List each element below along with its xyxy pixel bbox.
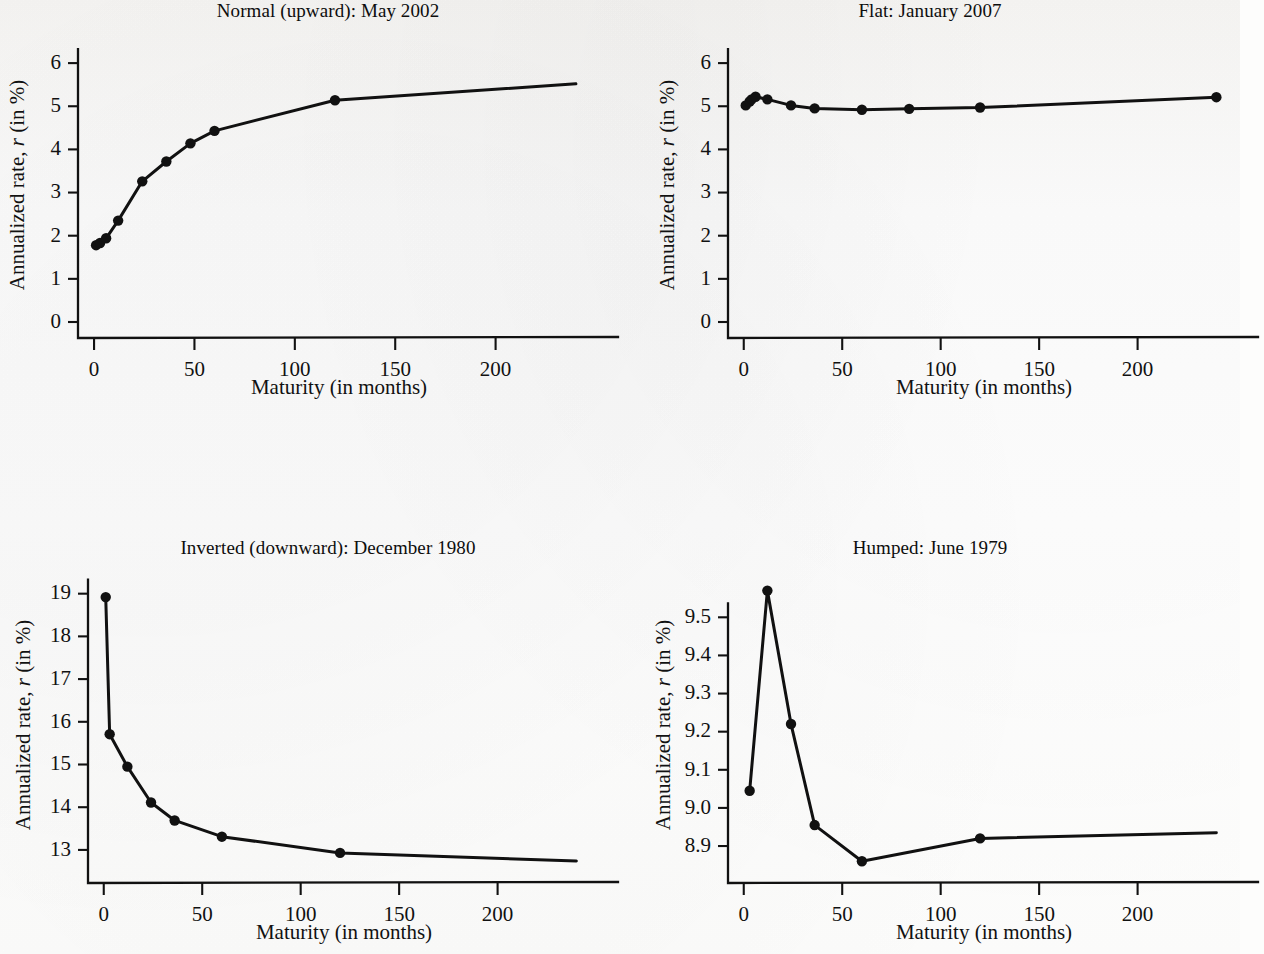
x-tick-label: 0 bbox=[89, 357, 100, 381]
data-point bbox=[975, 833, 985, 843]
data-point bbox=[335, 848, 345, 858]
y-tick-label: 14 bbox=[50, 794, 72, 818]
x-tick-label: 50 bbox=[832, 902, 853, 926]
y-axis-title: Annualized rate, r (in %) bbox=[11, 620, 35, 831]
x-tick-label: 0 bbox=[739, 902, 750, 926]
x-tick-label: 50 bbox=[192, 902, 213, 926]
data-point bbox=[786, 719, 796, 729]
x-tick-label: 200 bbox=[480, 357, 512, 381]
x-axis-title: Maturity (in months) bbox=[896, 375, 1072, 399]
y-tick-label: 1 bbox=[51, 266, 62, 290]
y-tick-label: 9.0 bbox=[685, 795, 711, 819]
y-tick-label: 13 bbox=[50, 837, 71, 861]
data-point bbox=[137, 176, 147, 186]
x-axis-title: Maturity (in months) bbox=[896, 920, 1072, 944]
data-point bbox=[146, 797, 156, 807]
data-point bbox=[762, 94, 772, 104]
y-axis-title: Annualized rate, r (in %) bbox=[651, 620, 675, 831]
data-point bbox=[169, 815, 179, 825]
panel-inverted: Inverted (downward): December 1980 13141… bbox=[0, 477, 620, 954]
y-tick-label: 17 bbox=[50, 666, 71, 690]
x-tick-label: 0 bbox=[739, 357, 750, 381]
y-tick-label: 2 bbox=[51, 223, 62, 247]
data-point bbox=[857, 105, 867, 115]
data-point bbox=[101, 233, 111, 243]
x-tick-label: 200 bbox=[482, 902, 514, 926]
chart-normal: 0123456050100150200Maturity (in months)A… bbox=[0, 0, 620, 477]
data-point bbox=[750, 92, 760, 102]
y-axis-title: Annualized rate, r (in %) bbox=[655, 80, 679, 291]
y-tick-label: 19 bbox=[50, 580, 71, 604]
y-tick-label: 9.1 bbox=[685, 757, 711, 781]
x-tick-label: 0 bbox=[99, 902, 110, 926]
x-tick-label: 200 bbox=[1122, 902, 1154, 926]
y-tick-label: 15 bbox=[50, 751, 71, 775]
y-tick-label: 5 bbox=[701, 93, 712, 117]
y-tick-label: 16 bbox=[50, 709, 71, 733]
panel-flat: Flat: January 2007 0123456050100150200Ma… bbox=[620, 0, 1240, 477]
y-tick-label: 6 bbox=[51, 50, 62, 74]
data-point bbox=[101, 592, 111, 602]
y-tick-label: 0 bbox=[701, 309, 712, 333]
data-point bbox=[113, 215, 123, 225]
panel-humped: Humped: June 1979 8.99.09.19.29.39.49.50… bbox=[620, 477, 1240, 954]
data-point bbox=[809, 103, 819, 113]
data-point bbox=[1211, 92, 1221, 102]
data-point bbox=[786, 100, 796, 110]
data-point bbox=[122, 761, 132, 771]
panel-normal: Normal (upward): May 2002 01234560501001… bbox=[0, 0, 620, 477]
y-tick-label: 1 bbox=[701, 266, 712, 290]
y-axis-title: Annualized rate, r (in %) bbox=[5, 80, 29, 291]
x-tick-label: 50 bbox=[832, 357, 853, 381]
y-tick-label: 2 bbox=[701, 223, 712, 247]
data-point bbox=[809, 820, 819, 830]
series-line bbox=[750, 591, 1217, 862]
y-tick-label: 4 bbox=[701, 136, 712, 160]
y-tick-label: 9.3 bbox=[685, 680, 711, 704]
axis-spines bbox=[88, 580, 618, 883]
chart-flat: 0123456050100150200Maturity (in months)A… bbox=[620, 0, 1240, 477]
x-tick-label: 200 bbox=[1122, 357, 1154, 381]
axis-spines bbox=[728, 49, 1258, 338]
data-point bbox=[744, 786, 754, 796]
y-tick-label: 6 bbox=[701, 50, 712, 74]
y-tick-label: 9.5 bbox=[685, 604, 711, 628]
data-point bbox=[185, 138, 195, 148]
y-tick-label: 0 bbox=[51, 309, 62, 333]
axis-spines bbox=[78, 49, 618, 338]
chart-humped: 8.99.09.19.29.39.49.5050100150200Maturit… bbox=[620, 477, 1240, 954]
y-tick-label: 3 bbox=[51, 179, 62, 203]
y-tick-label: 8.9 bbox=[685, 833, 711, 857]
x-tick-label: 50 bbox=[184, 357, 205, 381]
data-point bbox=[330, 95, 340, 105]
y-tick-label: 3 bbox=[701, 179, 712, 203]
y-tick-label: 9.4 bbox=[685, 642, 712, 666]
x-axis-title: Maturity (in months) bbox=[251, 375, 427, 399]
x-axis-title: Maturity (in months) bbox=[256, 920, 432, 944]
data-point bbox=[217, 831, 227, 841]
data-point bbox=[975, 102, 985, 112]
data-point bbox=[209, 126, 219, 136]
data-point bbox=[104, 729, 114, 739]
data-point bbox=[762, 585, 772, 595]
y-tick-label: 4 bbox=[51, 136, 62, 160]
data-point bbox=[904, 104, 914, 114]
data-point bbox=[161, 156, 171, 166]
y-tick-label: 5 bbox=[51, 93, 62, 117]
chart-inverted: 13141516171819050100150200Maturity (in m… bbox=[0, 477, 620, 954]
y-tick-label: 18 bbox=[50, 623, 71, 647]
y-tick-label: 9.2 bbox=[685, 718, 711, 742]
data-point bbox=[857, 856, 867, 866]
axis-spines bbox=[728, 603, 1258, 883]
